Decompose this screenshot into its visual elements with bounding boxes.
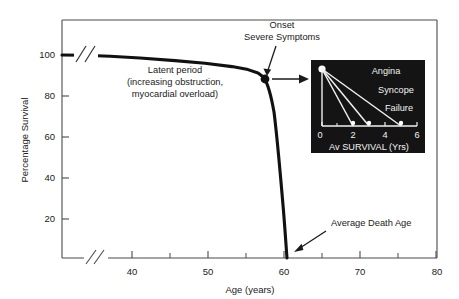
inset-label-angina: Angina bbox=[372, 66, 401, 76]
inset-x-axis-title: Av SURVIVAL (Yrs) bbox=[329, 142, 409, 152]
x-axis-break-marks bbox=[84, 250, 108, 264]
inset-x-tick-label: 4 bbox=[382, 130, 387, 140]
average-survival-inset: Angina Syncope Failure 0 2 4 6 Av SURVIV… bbox=[311, 60, 425, 153]
onset-line-1: Onset bbox=[270, 20, 295, 30]
latent-period-line-1: Latent period bbox=[148, 65, 202, 75]
x-tick-label: 80 bbox=[432, 266, 443, 277]
survival-chart-figure: 40 50 60 70 80 Age (years) 100 80 60 40 … bbox=[0, 0, 459, 299]
y-tick-label: 20 bbox=[44, 213, 55, 224]
average-death-age-annotation: Average Death Age bbox=[294, 218, 411, 252]
inset-pointer-arrow bbox=[272, 75, 309, 84]
onset-line-2: Severe Symptoms bbox=[244, 32, 320, 42]
inset-endpoint-syncope bbox=[367, 121, 371, 125]
y-axis-tick-labels: 100 80 60 40 20 bbox=[39, 49, 55, 224]
y-tick-label: 60 bbox=[44, 131, 55, 142]
latent-period-line-2: (increasing obstruction, bbox=[127, 77, 223, 87]
inset-label-failure: Failure bbox=[385, 103, 413, 113]
x-tick-label: 50 bbox=[203, 266, 214, 277]
y-tick-label: 100 bbox=[39, 49, 55, 60]
y-axis-ticks bbox=[62, 55, 69, 219]
average-death-age-arrow-shaft bbox=[300, 231, 326, 248]
y-axis-title: Percentage Survival bbox=[19, 97, 30, 182]
x-axis-tick-labels: 40 50 60 70 80 bbox=[127, 266, 443, 277]
onset-annotation: Onset Severe Symptoms bbox=[244, 20, 320, 76]
inset-x-tick-label: 2 bbox=[350, 130, 355, 140]
inset-x-tick-label: 0 bbox=[317, 130, 322, 140]
x-axis-title: Age (years) bbox=[225, 284, 274, 295]
inset-label-syncope: Syncope bbox=[378, 85, 414, 95]
x-axis-ticks bbox=[132, 251, 436, 258]
curve-break-marks bbox=[74, 46, 98, 63]
average-death-age-label: Average Death Age bbox=[331, 218, 411, 228]
onset-severe-symptoms-marker bbox=[261, 75, 270, 84]
average-death-age-arrow-head bbox=[294, 244, 303, 252]
x-tick-label: 70 bbox=[355, 266, 366, 277]
x-tick-label: 40 bbox=[127, 266, 138, 277]
x-tick-label: 60 bbox=[279, 266, 290, 277]
inset-x-tick-label: 6 bbox=[414, 130, 419, 140]
latent-period-annotation: Latent period (increasing obstruction, m… bbox=[127, 65, 223, 99]
inset-endpoint-angina bbox=[399, 121, 403, 125]
y-tick-label: 80 bbox=[44, 90, 55, 101]
latent-period-line-3: myocardial overload) bbox=[132, 89, 218, 99]
onset-arrow-shaft bbox=[268, 46, 276, 70]
inset-endpoint-failure bbox=[351, 121, 355, 125]
y-tick-label: 40 bbox=[44, 172, 55, 183]
chart-canvas: 40 50 60 70 80 Age (years) 100 80 60 40 … bbox=[0, 0, 459, 299]
